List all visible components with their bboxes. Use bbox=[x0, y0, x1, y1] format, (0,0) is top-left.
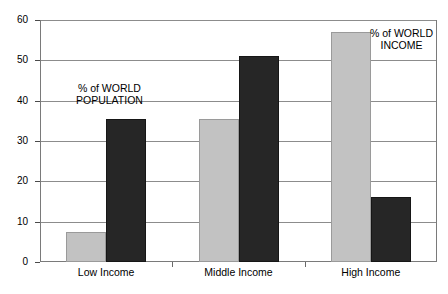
y-tick-label: 40 bbox=[17, 96, 28, 106]
plot-area bbox=[40, 20, 437, 262]
x-tick-label: Low Income bbox=[78, 266, 135, 278]
gridline bbox=[41, 20, 436, 21]
annotation-income-line1: % of WORLD bbox=[370, 27, 433, 39]
annotation-population-line2: POPULATION bbox=[76, 94, 143, 106]
gridline bbox=[41, 222, 436, 223]
y-tick-label: 10 bbox=[17, 217, 28, 227]
bar-chart: 0102030405060 Low IncomeMiddle IncomeHig… bbox=[0, 0, 448, 294]
annotation-income: % of WORLD INCOME bbox=[370, 27, 433, 51]
y-tick-label: 30 bbox=[17, 136, 28, 146]
y-tick-label: 20 bbox=[17, 176, 28, 186]
y-tick-label: 50 bbox=[17, 55, 28, 65]
x-axis: Low IncomeMiddle IncomeHigh Income bbox=[40, 266, 437, 286]
y-axis: 0102030405060 bbox=[0, 20, 34, 262]
x-tick-label: Middle Income bbox=[204, 266, 272, 278]
annotation-income-line2: INCOME bbox=[370, 39, 433, 51]
gridline bbox=[41, 141, 436, 142]
gridline bbox=[41, 60, 436, 61]
y-tick-label: 60 bbox=[17, 15, 28, 25]
gridline bbox=[41, 181, 436, 182]
y-tick-label: 0 bbox=[22, 257, 28, 267]
x-tick-label: High Income bbox=[341, 266, 400, 278]
annotation-population-line1: % of WORLD bbox=[76, 82, 143, 94]
annotation-population: % of WORLD POPULATION bbox=[76, 82, 143, 106]
